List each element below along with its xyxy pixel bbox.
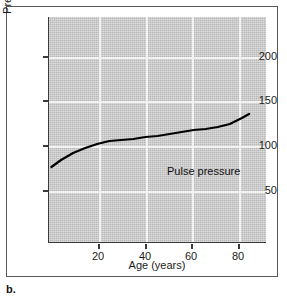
tick-mark-x-80 <box>238 244 240 249</box>
figure-frame: Pulse pressure 200 150 100 50 20 40 60 8… <box>6 6 278 277</box>
tick-mark-y-100 <box>43 145 48 147</box>
tick-mark-x-20 <box>98 244 100 249</box>
tick-mark-x-60 <box>191 244 193 249</box>
tick-label-y-100: 100 <box>243 140 277 151</box>
gridline-y-200 <box>49 57 266 59</box>
tick-mark-x-40 <box>145 244 147 249</box>
gridline-x-80 <box>239 17 241 242</box>
series-label-pulse-pressure: Pulse pressure <box>167 165 240 177</box>
tick-label-y-50: 50 <box>243 185 277 196</box>
figure-caption: b. <box>6 283 16 295</box>
tick-label-y-200: 200 <box>243 51 277 62</box>
tick-mark-y-150 <box>43 100 48 102</box>
gridline-y-100 <box>49 146 266 148</box>
y-axis-title: Pressure (mm Hg) <box>1 0 13 49</box>
gridline-x-20 <box>99 17 101 242</box>
x-axis-title: Age (years) <box>48 259 266 271</box>
gridline-y-50 <box>49 191 266 193</box>
tick-mark-y-200 <box>43 56 48 58</box>
pulse-pressure-curve <box>49 17 266 242</box>
gridline-x-40 <box>146 17 148 242</box>
tick-label-y-150: 150 <box>243 95 277 106</box>
gridline-x-60 <box>192 17 194 242</box>
plot-area: Pulse pressure <box>48 17 266 243</box>
gridline-y-150 <box>49 101 266 103</box>
tick-mark-y-50 <box>43 190 48 192</box>
